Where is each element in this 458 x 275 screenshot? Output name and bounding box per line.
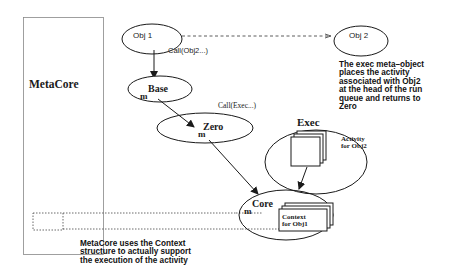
metacore-annotation: MetaCore uses the Context structure to a… bbox=[80, 240, 191, 265]
zero-label: Zero bbox=[203, 121, 223, 132]
base-label: Base bbox=[148, 83, 169, 94]
obj2-label: Obj 2 bbox=[349, 31, 369, 40]
call-obj2-label: Call(Obj2...) bbox=[168, 46, 209, 55]
activity-stack-icon bbox=[291, 131, 326, 166]
metacore-box: MetaCore bbox=[23, 17, 104, 255]
exec-annotation: The exec meta–object places the activity… bbox=[339, 61, 424, 111]
node-exec: Exec Activity for Obj2 bbox=[265, 116, 367, 194]
core-method-marker: m bbox=[244, 206, 252, 216]
obj1-label: Obj 1 bbox=[133, 31, 153, 40]
context-label-2: for Obj1 bbox=[282, 220, 308, 228]
node-base: Base m bbox=[128, 76, 192, 102]
zero-method-marker: m bbox=[198, 129, 206, 139]
diagram-canvas: MetaCore Obj 1 Obj 2 Call(Obj2...) Base … bbox=[0, 0, 458, 275]
core-label: Core bbox=[252, 198, 273, 209]
node-zero: Zero m bbox=[157, 113, 253, 143]
exec-note-line: Zero bbox=[339, 103, 424, 111]
edge-zero-core bbox=[209, 140, 258, 194]
call-exec-label: Call(Exec...) bbox=[218, 101, 257, 110]
metacore-label: MetaCore bbox=[29, 78, 79, 90]
exec-label: Exec bbox=[297, 116, 320, 128]
base-method-marker: m bbox=[140, 91, 148, 101]
node-obj2: Obj 2 bbox=[334, 26, 388, 56]
edge-base-zero bbox=[158, 99, 194, 127]
activity-label-2: for Obj2 bbox=[341, 142, 367, 150]
node-core: Core m Context for Obj1 bbox=[239, 190, 333, 240]
metacore-note-line: the execution of the activity bbox=[80, 257, 191, 265]
